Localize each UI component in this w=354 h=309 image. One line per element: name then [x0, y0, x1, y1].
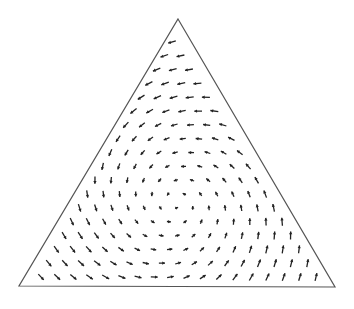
- arrow-head-icon: [102, 194, 105, 197]
- arrow-head-icon: [93, 181, 96, 184]
- simplex-diagram: [0, 0, 354, 309]
- arrow-head-icon: [232, 219, 235, 222]
- vector-field-arrows: [38, 41, 318, 281]
- arrow-head-icon: [118, 194, 121, 197]
- arrow-head-icon: [134, 194, 137, 197]
- simplex-triangle: [19, 19, 335, 287]
- arrow-head-icon: [298, 245, 301, 248]
- arrow-head-icon: [109, 181, 112, 184]
- arrow-head-icon: [181, 165, 184, 168]
- arrow-head-icon: [150, 193, 153, 196]
- arrow-head-icon: [202, 96, 205, 99]
- arrow-head-icon: [248, 218, 251, 221]
- arrow-head-icon: [280, 218, 283, 221]
- arrow-head-icon: [191, 206, 194, 209]
- arrow-head-icon: [273, 232, 276, 235]
- arrow-head-icon: [187, 123, 190, 126]
- arrow-head-icon: [193, 82, 196, 85]
- arrow-head-icon: [155, 275, 158, 278]
- arrow-head-icon: [162, 262, 165, 265]
- arrow-head-icon: [188, 151, 191, 154]
- arrow-head-icon: [264, 218, 267, 221]
- arrow-head-icon: [194, 110, 197, 113]
- arrow-head-icon: [207, 206, 210, 209]
- arrow-head-icon: [196, 137, 199, 140]
- arrow-head-icon: [289, 232, 292, 235]
- arrow-head-icon: [168, 220, 171, 223]
